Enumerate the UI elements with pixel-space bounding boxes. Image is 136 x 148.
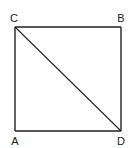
vertex-label-a: A <box>11 135 19 147</box>
vertex-label-c: C <box>10 12 18 24</box>
square-diagram: C B A D <box>0 0 136 148</box>
diagonal-cd <box>15 27 121 131</box>
vertex-label-b: B <box>117 12 124 24</box>
vertex-label-d: D <box>117 135 125 147</box>
